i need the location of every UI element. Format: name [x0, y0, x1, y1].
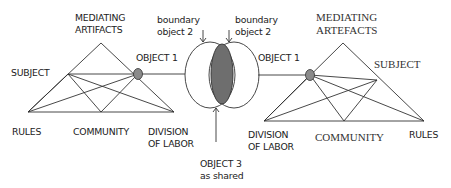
arrow-down-icon: [226, 30, 232, 42]
left-division-of-labor-label: DIVISION OF LABOR: [148, 126, 194, 150]
left-rules-label: RULES: [12, 126, 41, 138]
label-line: object 2: [157, 26, 200, 38]
right-object-label: OBJECT 1: [258, 52, 300, 64]
arrow-up-icon: [213, 108, 219, 142]
right-community-label: COMMUNITY: [315, 131, 384, 144]
left-mediating-artifacts-label: MEDIATING ARTIFACTS: [75, 12, 125, 36]
right-object-node: [306, 70, 315, 81]
label-line: DIVISION: [248, 129, 294, 141]
label-line: ARTEFACTS: [316, 24, 377, 37]
left-object-label: OBJECT 1: [136, 52, 178, 64]
boundary-object-left-label: boundary object 2: [157, 14, 200, 38]
shared-object-lens: [211, 44, 233, 104]
label-line: OF LABOR: [248, 141, 294, 153]
label-line: OBJECT 3: [200, 158, 243, 170]
label-line: MEDIATING: [75, 12, 125, 24]
shared-object-label: OBJECT 3 as shared: [200, 158, 243, 182]
label-line: OF LABOR: [148, 138, 194, 150]
right-mediating-artefacts-label: MEDIATING ARTEFACTS: [316, 11, 377, 37]
label-line: ARTIFACTS: [75, 24, 125, 36]
label-line: MEDIATING: [316, 11, 377, 24]
label-line: boundary: [235, 14, 278, 26]
right-division-of-labor-label: DIVISION OF LABOR: [248, 129, 294, 153]
arrow-down-icon: [200, 30, 206, 42]
right-subject-label: SUBJECT: [374, 58, 420, 71]
activity-systems-diagram: MEDIATING ARTIFACTS SUBJECT OBJECT 1 RUL…: [0, 0, 451, 188]
right-rules-label: RULES: [409, 129, 438, 141]
left-community-label: COMMUNITY: [73, 126, 129, 138]
label-line: as shared: [200, 170, 243, 182]
label-line: DIVISION: [148, 126, 194, 138]
left-subject-label: SUBJECT: [11, 67, 49, 79]
boundary-object-right-label: boundary object 2: [235, 14, 278, 38]
left-object-node: [134, 69, 143, 80]
label-line: object 2: [235, 26, 278, 38]
label-line: boundary: [157, 14, 200, 26]
